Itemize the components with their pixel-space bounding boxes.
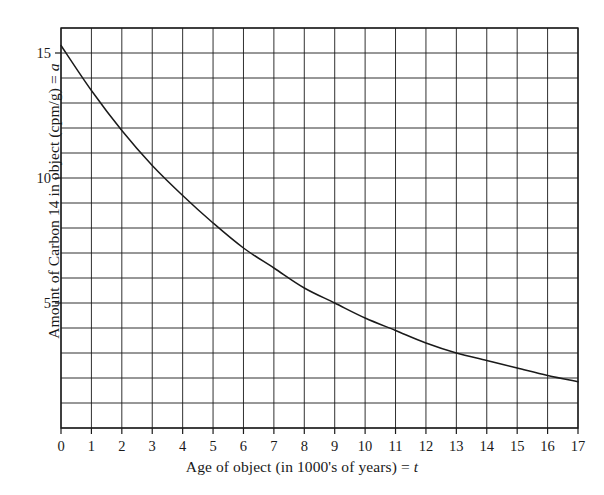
x-tick-label: 9 [331, 438, 338, 454]
x-tick-label: 13 [449, 438, 464, 454]
x-tick-label: 12 [419, 438, 434, 454]
chart-plot-area: 01234567891011121314151617 51015 [0, 0, 604, 495]
x-axis-title-text: Age of object (in 1000's of years) = [186, 458, 410, 475]
x-tick-label: 17 [571, 438, 586, 454]
x-axis-tick-labels: 01234567891011121314151617 [57, 438, 585, 454]
y-axis-variable: a [45, 63, 62, 71]
x-tick-label: 6 [240, 438, 247, 454]
x-tick-label: 11 [389, 438, 403, 454]
x-tick-label: 2 [118, 438, 125, 454]
x-axis-tick-marks [61, 428, 578, 434]
x-tick-label: 1 [88, 438, 95, 454]
x-axis-title: Age of object (in 1000's of years) = t [0, 458, 604, 476]
x-tick-label: 5 [209, 438, 216, 454]
x-tick-label: 4 [179, 438, 187, 454]
x-tick-label: 15 [510, 438, 525, 454]
x-tick-label: 0 [57, 438, 64, 454]
x-axis-variable: t [414, 458, 418, 475]
x-tick-label: 16 [540, 438, 555, 454]
y-axis-title: Amount of Carbon 14 in object (cpm/g) = … [45, 1, 63, 401]
x-tick-label: 7 [270, 438, 277, 454]
carbon-14-decay-figure: 01234567891011121314151617 51015 Amount … [0, 0, 604, 495]
decay-curve [61, 46, 578, 382]
x-tick-label: 8 [301, 438, 308, 454]
x-tick-label: 3 [149, 438, 156, 454]
y-axis-title-text: Amount of Carbon 14 in object (cpm/g) = [45, 75, 62, 339]
x-tick-label: 10 [358, 438, 373, 454]
horizontal-gridlines [61, 28, 578, 428]
x-tick-label: 14 [480, 438, 495, 454]
